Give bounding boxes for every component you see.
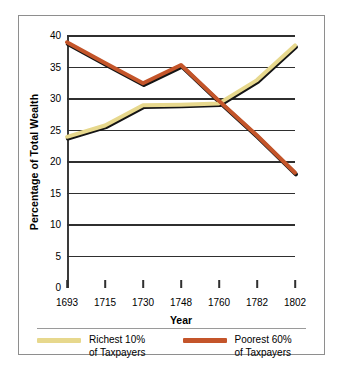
y-tick-label: 25: [50, 126, 61, 136]
x-tick-label: 1693: [56, 298, 78, 308]
legend-label: Richest 10%of Taxpayers: [89, 334, 146, 359]
legend-label-line2: of Taxpayers: [235, 347, 292, 360]
y-tick-label: 5: [55, 252, 61, 262]
y-axis-title-text: Percentage of Total Wealth: [28, 94, 40, 230]
legend-swatch: [183, 338, 227, 343]
x-tick-label: 1802: [284, 298, 306, 308]
y-tick-label: 10: [50, 220, 61, 230]
y-tick-label: 15: [50, 189, 61, 199]
series-lines: [67, 36, 295, 288]
legend-divider: [37, 328, 306, 329]
x-axis-title: Year: [67, 314, 295, 326]
x-tick-label: 1715: [94, 298, 116, 308]
x-tick-label: 1782: [246, 298, 268, 308]
axes: 0510152025303540: [67, 36, 295, 288]
y-tick-label: 40: [50, 31, 61, 41]
legend-item: Richest 10%of Taxpayers: [37, 334, 169, 359]
chart-legend: Richest 10%of TaxpayersPoorest 60%of Tax…: [37, 334, 314, 359]
x-tick-label: 1730: [132, 298, 154, 308]
legend-label: Poorest 60%of Taxpayers: [235, 334, 292, 359]
x-tick-label: 1748: [170, 298, 192, 308]
legend-item: Poorest 60%of Taxpayers: [183, 334, 315, 359]
x-tick-label: 1760: [208, 298, 230, 308]
y-tick-label: 20: [50, 157, 61, 167]
legend-label-line1: Richest 10%: [89, 334, 146, 347]
legend-label-line1: Poorest 60%: [235, 334, 292, 347]
y-axis-title: Percentage of Total Wealth: [25, 36, 43, 288]
plot-area: 0510152025303540 16931715173017481760178…: [67, 36, 295, 288]
legend-label-line2: of Taxpayers: [89, 347, 146, 360]
y-tick-label: 30: [50, 94, 61, 104]
y-tick-label: 35: [50, 63, 61, 73]
y-tick-label: 0: [55, 283, 61, 293]
chart-figure: Percentage of Total Wealth 0510152025303…: [18, 15, 325, 355]
legend-swatch: [37, 338, 81, 343]
